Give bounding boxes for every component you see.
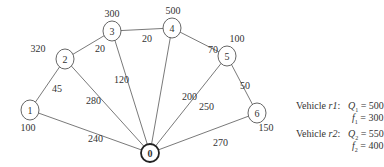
edge-0-1 <box>30 110 150 153</box>
fixed-cost-label: f2 = 400 <box>352 140 383 153</box>
vehicle-label: Vehicle r1: <box>296 100 340 111</box>
vehicle-label: Vehicle r2: <box>296 128 340 139</box>
edge-0-3 <box>112 31 150 153</box>
edge-weight-0-6: 270 <box>213 137 228 148</box>
node-5: 5 <box>218 46 236 66</box>
svg-text:6: 6 <box>255 108 260 119</box>
svg-text:5: 5 <box>225 51 230 62</box>
demand-label-2: 320 <box>31 43 46 54</box>
svg-text:2: 2 <box>63 54 68 65</box>
depot-node: 0 <box>141 144 159 162</box>
edge-weight-0-4: 200 <box>182 91 197 102</box>
edge-weight-1-2: 45 <box>52 83 62 94</box>
edge-weight-0-3: 120 <box>114 74 129 85</box>
edge-0-2 <box>65 59 150 153</box>
node-3: 3 <box>103 21 121 41</box>
fixed-cost-label: f1 = 300 <box>352 112 383 125</box>
edge-weight-2-3: 20 <box>95 43 105 54</box>
edge-weight-0-2: 280 <box>86 95 101 106</box>
edge-weight-0-5: 250 <box>199 101 214 112</box>
svg-text:1: 1 <box>28 105 33 116</box>
node-6: 6 <box>248 103 266 123</box>
svg-text:0: 0 <box>148 148 153 159</box>
svg-text:3: 3 <box>110 26 115 37</box>
edge-0-4 <box>150 28 172 153</box>
edge-weight-0-1: 240 <box>88 133 103 144</box>
edge-weight-5-6: 50 <box>240 80 250 91</box>
node-1: 1 <box>21 100 39 120</box>
demand-label-5: 100 <box>230 33 245 44</box>
node-4: 4 <box>163 18 181 38</box>
demand-label-4: 500 <box>166 5 181 16</box>
node-2: 2 <box>56 49 74 69</box>
svg-text:4: 4 <box>170 23 175 34</box>
demand-label-1: 100 <box>21 122 36 133</box>
demand-label-6: 150 <box>259 122 274 133</box>
edge-weight-4-5: 70 <box>208 44 218 55</box>
demand-label-3: 300 <box>105 8 120 19</box>
edge-weight-3-4: 20 <box>142 33 152 44</box>
